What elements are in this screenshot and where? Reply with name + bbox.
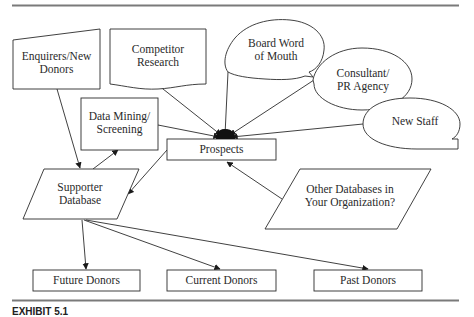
edge-board-prospects <box>225 72 228 135</box>
edge-supporterdb-datamining <box>93 150 118 169</box>
figure-caption: EXHIBIT 5.1 <box>12 306 68 317</box>
node-past-shape[interactable] <box>314 270 422 291</box>
node-future-shape[interactable] <box>33 270 140 291</box>
edge-enquirers-supporterdb <box>57 89 80 168</box>
edge-otherdb-prospects <box>227 162 282 199</box>
node-enquirers-shape[interactable] <box>13 29 100 89</box>
node-competitor-shape[interactable] <box>110 29 206 89</box>
node-newstaff-shape[interactable] <box>363 98 460 149</box>
node-datamining-shape[interactable] <box>81 98 158 150</box>
nodes <box>13 20 460 291</box>
arrowhead-cluster-icon <box>216 129 235 139</box>
edge-supporterdb-future <box>82 220 86 269</box>
node-current-shape[interactable] <box>167 270 276 291</box>
node-otherdb-shape[interactable] <box>265 169 431 229</box>
edge-supporterdb-current <box>84 220 220 269</box>
node-board-shape[interactable] <box>225 20 324 80</box>
edge-consultant-prospects <box>230 80 314 135</box>
edge-datamining-prospects <box>158 125 219 137</box>
node-supporterdb-shape[interactable] <box>23 169 139 219</box>
edge-competitor-prospects <box>158 85 221 135</box>
node-prospects-shape[interactable] <box>167 139 276 160</box>
caption-lead: EXHIBIT 5.1 <box>12 306 68 317</box>
edge-newstaff-prospects <box>232 124 363 137</box>
